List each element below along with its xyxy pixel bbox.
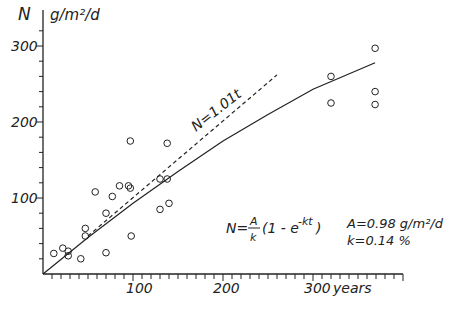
param-k: k=0.14 % (347, 233, 411, 248)
eq-exp: -kt (298, 215, 313, 228)
y-tick-200: 200 (11, 114, 38, 130)
x-tick-100: 100 (126, 280, 153, 296)
data-point (78, 255, 85, 262)
data-point (103, 210, 110, 217)
data-point (116, 183, 123, 190)
data-point (127, 138, 134, 145)
data-point (128, 233, 135, 240)
data-point (372, 101, 379, 108)
eq-rhs: (1 - e (262, 220, 299, 236)
data-point (51, 250, 58, 257)
y-axis-label: N (18, 4, 31, 24)
chart-plot: N g/m²/d years 100 200 300 100 200 300 N… (0, 0, 460, 310)
data-point (328, 73, 335, 80)
data-point (82, 225, 89, 232)
eq-lhs: N= (226, 220, 248, 236)
eq-close: ) (315, 220, 321, 236)
data-point (372, 45, 379, 52)
x-tick-200: 200 (213, 280, 240, 296)
eq-num: A (249, 215, 258, 228)
linear-fit-line (88, 75, 277, 236)
y-tick-300: 300 (11, 38, 38, 54)
data-point (157, 206, 164, 213)
x-axis-unit: years (332, 280, 372, 296)
eq-den: k (250, 231, 257, 244)
y-axis-unit: g/m²/d (50, 6, 100, 24)
model-equation: N= A k (1 - e -kt ) (226, 215, 321, 244)
data-point (166, 200, 173, 207)
data-point (328, 100, 335, 107)
y-tick-100: 100 (11, 190, 38, 206)
data-point (103, 249, 110, 256)
model-curve (43, 63, 375, 274)
data-point (92, 189, 99, 196)
chart-figure: N g/m²/d years 100 200 300 100 200 300 N… (0, 0, 460, 310)
x-tick-300: 300 (304, 280, 331, 296)
data-point (372, 88, 379, 95)
data-point (164, 140, 171, 147)
param-a: A=0.98 g/m²/d (346, 216, 444, 231)
data-series (43, 45, 378, 274)
data-point (109, 193, 116, 200)
